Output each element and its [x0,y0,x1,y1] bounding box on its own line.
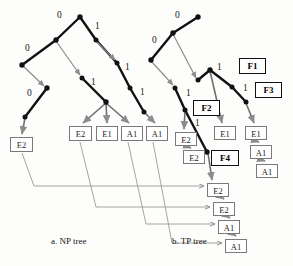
np-leaf-box-a1-2[interactable]: A1 [146,126,168,141]
np-leaf-box-e2-2[interactable]: E2 [69,126,92,141]
fragment-box-f3[interactable]: F3 [255,82,282,98]
result-box-e2-2[interactable]: E2 [213,202,235,216]
np-edge-n7-leaf3 [106,103,107,123]
tp-edge-label-0-b: 0 [152,36,157,46]
tp-edge-n8-e1b [246,103,254,123]
np-node-n7 [103,99,108,104]
np-node-n10 [142,110,147,115]
tp-edge-n1-n6-gray [173,34,196,78]
tp-edge-label-1-d: 1 [195,119,200,129]
tp-edge-n3-n4 [175,88,185,110]
np-leaf-box-e2-1[interactable]: E2 [10,137,33,152]
res-edge-3-4 [233,234,236,236]
tp-node-n3b [196,78,201,83]
link-np-leaf1-res1 [22,153,204,186]
tp-leaf-box-a1-1[interactable]: A1 [250,145,272,159]
tp-node-n3 [173,86,178,91]
tp-edge-label-1-b: 1 [186,89,191,99]
np-leaf-box-a1-1[interactable]: A1 [121,126,143,141]
tp-node-root [195,14,200,19]
tp-leaf-box-e1-1[interactable]: E1 [214,126,236,140]
np-edge-label-0-a: 0 [57,11,62,21]
np-node-n3 [19,62,24,67]
tp-edge-label-1-c: 1 [243,84,248,94]
np-edge-n2-arrow [96,41,115,60]
np-tree-edges [19,14,155,134]
caption-np-tree: a. NP tree [51,236,86,246]
tp-node-n6 [207,67,212,72]
np-node-n4 [44,85,49,90]
result-box-e2-1[interactable]: E2 [207,183,229,197]
tp-node-n4 [183,108,188,113]
fragment-box-f1[interactable]: F1 [239,58,266,74]
np-edge-label-0-c: 0 [27,89,32,99]
figure-np-tp-tree: 0 1 0 0 1 1 1 E2 E2 E1 A1 A1 0 0 1 1 1 1… [0,0,293,266]
tp-leaf-box-e2-2[interactable]: E2 [183,150,205,164]
tp-node-n5 [204,149,209,154]
np-node-n1 [53,37,58,42]
tp-node-n7 [230,85,235,90]
tp-leaf-box-a1-2[interactable]: A1 [256,164,278,178]
tp-node-n8 [244,100,249,105]
np-node-n2 [94,38,99,43]
fragment-box-f4[interactable]: F4 [211,150,239,166]
tp-edge-n2-n3-gray [151,61,173,85]
np-edge-label-1-c: 1 [125,63,130,73]
fragment-box-f2[interactable]: F2 [193,100,220,116]
np-edge-n5-leaf1 [22,118,25,134]
result-box-a1-1[interactable]: A1 [218,220,240,234]
np-node-n9 [128,86,133,91]
res-edge-1-2 [221,197,224,199]
res-edge-2-3 [227,216,230,218]
tp-node-n1 [170,30,175,35]
tp-node-n2 [148,57,153,62]
np-leaf-box-e1[interactable]: E1 [96,126,118,141]
tp-edge-a1a-a1b [262,160,265,161]
tp-edge-label-0-a: 0 [175,11,180,21]
np-edge-label-1-a: 1 [95,22,100,32]
tp-tree-edges [148,14,265,180]
tp-edge-label-1-a: 1 [217,63,222,73]
np-edge-label-1-b: 1 [91,78,96,88]
np-edge-n3-n4 [22,65,44,86]
np-edge-root-right [80,17,96,40]
np-edge-n7-leaf4 [106,103,129,123]
np-node-n8 [115,61,120,66]
np-node-n6 [80,76,85,81]
tp-leaf-box-e1-2[interactable]: E1 [245,126,267,140]
np-edge-n1-n6 [56,41,80,75]
tp-leaf-box-e2-1[interactable]: E2 [175,132,197,146]
tp-edge-n4-e2a [184,111,185,129]
result-box-a1-2[interactable]: A1 [225,239,247,253]
np-edge-label-1-d: 1 [140,88,145,98]
np-edge-n7-leaf2 [83,103,106,123]
np-edge-label-0-b: 0 [25,44,30,54]
np-node-root [77,14,82,19]
np-node-n5 [23,115,28,120]
tp-edge-e1b-a1a [256,141,259,142]
caption-tp-tree: b. TP tree [172,236,207,246]
